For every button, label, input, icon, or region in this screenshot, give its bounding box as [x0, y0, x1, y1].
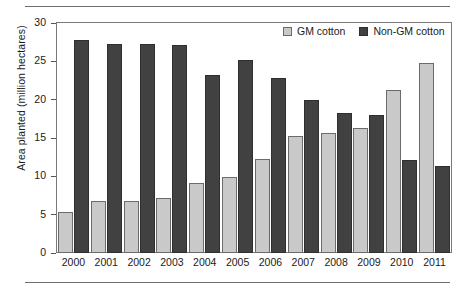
bar-group [189, 23, 220, 253]
legend-label: GM cotton [297, 25, 345, 37]
bar-group [124, 23, 155, 253]
chart-figure: Area planted (million hectares) 05101520… [0, 0, 470, 291]
bar-group [255, 23, 286, 253]
bar-gm-cotton-2005 [222, 177, 237, 253]
bar-gm-cotton-2010 [386, 90, 401, 253]
bars-container [57, 23, 451, 253]
bar-gm-cotton-2008 [321, 133, 336, 253]
legend-label: Non-GM cotton [373, 25, 444, 37]
y-axis-label: Area planted (million hectares) [15, 0, 27, 223]
bar-group [222, 23, 253, 253]
y-tick-label: 5 [0, 208, 46, 220]
y-tick-label: 30 [0, 16, 46, 28]
chart-legend: GM cottonNon-GM cotton [283, 25, 445, 37]
bar-non-gm-cotton-2010 [402, 160, 417, 253]
x-tick-label: 2011 [413, 256, 457, 268]
y-tick-label: 25 [0, 54, 46, 66]
bar-gm-cotton-2003 [156, 198, 171, 253]
bar-group [156, 23, 187, 253]
bar-non-gm-cotton-2006 [271, 78, 286, 253]
bar-gm-cotton-2007 [288, 136, 303, 253]
bar-non-gm-cotton-2008 [337, 113, 352, 253]
bar-gm-cotton-2004 [189, 183, 204, 253]
top-rule [25, 6, 450, 7]
legend-swatch-icon [359, 27, 368, 36]
bar-non-gm-cotton-2003 [172, 45, 187, 253]
bar-group [288, 23, 319, 253]
bottom-rule [25, 282, 450, 283]
y-tick-label: 10 [0, 169, 46, 181]
legend-swatch-icon [283, 27, 292, 36]
legend-item-non-gm-cotton[interactable]: Non-GM cotton [359, 25, 444, 37]
bar-group [419, 23, 450, 253]
bar-non-gm-cotton-2001 [107, 44, 122, 253]
bar-non-gm-cotton-2000 [74, 40, 89, 253]
legend-item-gm-cotton[interactable]: GM cotton [283, 25, 345, 37]
bar-group [58, 23, 89, 253]
bar-group [321, 23, 352, 253]
bar-gm-cotton-2002 [124, 201, 139, 253]
x-axis-labels: 2000200120022003200420052006200720082009… [57, 256, 451, 276]
bar-non-gm-cotton-2011 [435, 166, 450, 253]
bar-gm-cotton-2000 [58, 212, 73, 253]
bar-gm-cotton-2011 [419, 63, 434, 253]
bar-group [91, 23, 122, 253]
bar-non-gm-cotton-2007 [304, 100, 319, 253]
bar-group [353, 23, 384, 253]
y-tick-label: 0 [0, 246, 46, 258]
bar-non-gm-cotton-2002 [140, 44, 155, 253]
y-tick-label: 20 [0, 93, 46, 105]
bar-group [386, 23, 417, 253]
bar-non-gm-cotton-2009 [369, 115, 384, 253]
bar-gm-cotton-2006 [255, 159, 270, 253]
bar-non-gm-cotton-2004 [205, 75, 220, 253]
bar-non-gm-cotton-2005 [238, 60, 253, 253]
y-tick-label: 15 [0, 131, 46, 143]
bar-gm-cotton-2001 [91, 201, 106, 253]
bar-gm-cotton-2009 [353, 128, 368, 253]
